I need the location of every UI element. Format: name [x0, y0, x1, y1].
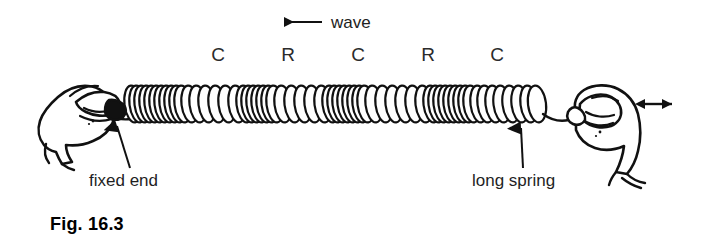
coil-group-trailing [468, 85, 548, 124]
zone-label-r-1: R [277, 45, 299, 64]
zone-label-c-1: C [207, 45, 229, 64]
long-spring-label: long spring [472, 172, 555, 189]
long-spring-leader-arrow [521, 128, 523, 168]
fixed-end-leader-arrow [117, 126, 130, 168]
spring-coils [108, 85, 569, 124]
zone-label-c-3: C [486, 45, 508, 64]
left-hand-holding-fixed-end [39, 86, 126, 170]
figure-caption: Fig. 16.3 [50, 215, 124, 233]
fixed-end-label: fixed end [89, 172, 158, 189]
zone-label-c-2: C [347, 45, 369, 64]
right-hand-oscillating [567, 85, 645, 188]
wave-direction-label: wave [331, 14, 371, 31]
figure-container: wave C R C R C fixed end long spring Fig… [0, 0, 713, 252]
zone-label-r-2: R [417, 45, 439, 64]
